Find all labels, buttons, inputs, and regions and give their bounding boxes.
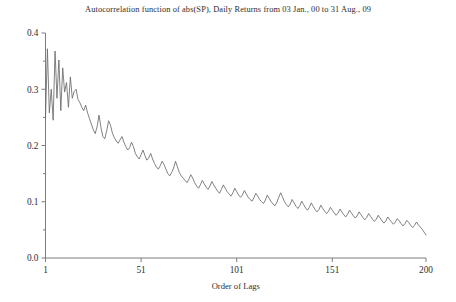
- y-tick-label: 0.1: [27, 197, 39, 207]
- x-axis-title: Order of Lags: [212, 281, 261, 291]
- x-tick-label: 101: [230, 265, 244, 275]
- y-axis: 0.00.10.20.30.4: [27, 28, 46, 263]
- y-tick-label: 0.3: [27, 85, 39, 95]
- x-tick-label: 51: [136, 265, 146, 275]
- y-tick-label: 0.4: [27, 28, 39, 38]
- x-tick-label: 200: [419, 265, 433, 275]
- y-tick-label: 0.2: [27, 141, 39, 151]
- x-axis: 151101151200: [43, 258, 433, 275]
- x-axis-ticks: [46, 258, 427, 262]
- y-tick-label: 0.0: [27, 253, 39, 263]
- x-axis-tick-labels: 151101151200: [43, 265, 433, 275]
- y-axis-ticks: [42, 33, 46, 258]
- acf-series-line: [46, 49, 427, 235]
- x-tick-label: 151: [325, 265, 339, 275]
- x-tick-label: 1: [43, 265, 48, 275]
- y-axis-tick-labels: 0.00.10.20.30.4: [27, 28, 39, 263]
- acf-line-chart: 0.00.10.20.30.4 151101151200 Order of La…: [0, 0, 456, 302]
- chart-container: Autocorrelation function of abs(SP), Dai…: [0, 0, 456, 302]
